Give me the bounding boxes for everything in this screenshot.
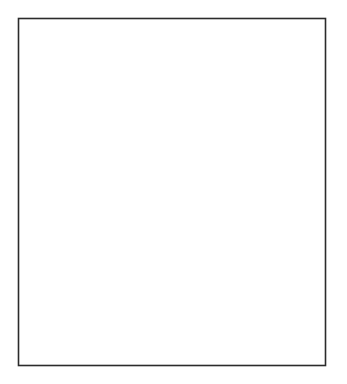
- figure-border: [19, 19, 326, 366]
- figure-container: [0, 0, 347, 384]
- dual-panel-chart: [0, 0, 347, 384]
